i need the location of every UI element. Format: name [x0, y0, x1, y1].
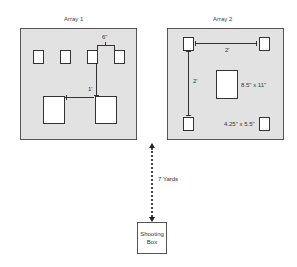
array1-title: Array 1	[64, 16, 83, 22]
array2-target-bottom-left	[183, 117, 194, 131]
array2-vertical-label: 2'	[193, 78, 197, 84]
array1-6in-bracket-left	[97, 45, 98, 50]
array1-1ft-dimension-line	[64, 97, 94, 98]
array2-horizontal-dimension-line	[195, 43, 257, 44]
array1-1ft-label: 1'	[88, 86, 92, 92]
array2-horizontal-tick-left	[195, 41, 196, 46]
array1-6in-bracket-right	[114, 45, 115, 50]
array2-horizontal-label: 2'	[225, 47, 229, 53]
array1-1ft-tick-left	[66, 95, 67, 100]
array1-vertical-dimension-line	[96, 64, 97, 96]
array1-6in-bracket-center	[105, 42, 106, 45]
array1-large-target-1	[43, 96, 65, 124]
array2-center-target-label: 8.5" x 11"	[241, 82, 266, 88]
shooting-box: Shooting Box	[137, 222, 167, 254]
array2-vertical-tick-top	[186, 51, 191, 52]
array1-6in-bracket	[97, 45, 115, 46]
array1-small-target-4	[114, 50, 125, 64]
array2-center-target	[216, 70, 238, 99]
array2-title: Array 2	[213, 16, 232, 22]
array2-target-top-left	[183, 37, 194, 51]
array1-small-target-1	[33, 50, 44, 64]
array1-small-target-2	[60, 50, 71, 64]
array1-large-target-2	[95, 96, 117, 124]
array2-horizontal-tick-right	[256, 41, 257, 46]
array1-6in-label: 6"	[102, 34, 107, 40]
array2-vertical-tick-bottom	[186, 115, 191, 116]
distance-label: 7 Yards	[158, 176, 178, 182]
shooting-box-line2: Box	[140, 238, 164, 246]
array2-corner-target-label: 4.25" x 5.5"	[224, 121, 255, 127]
array2-vertical-dimension-line	[188, 51, 189, 116]
array1-small-target-3	[87, 50, 98, 64]
shooting-box-line1: Shooting	[140, 230, 164, 238]
array2-target-top-right	[259, 37, 270, 51]
array2-target-bottom-right	[259, 117, 270, 131]
distance-dotted-line	[151, 148, 153, 217]
array1-frame	[20, 28, 137, 140]
